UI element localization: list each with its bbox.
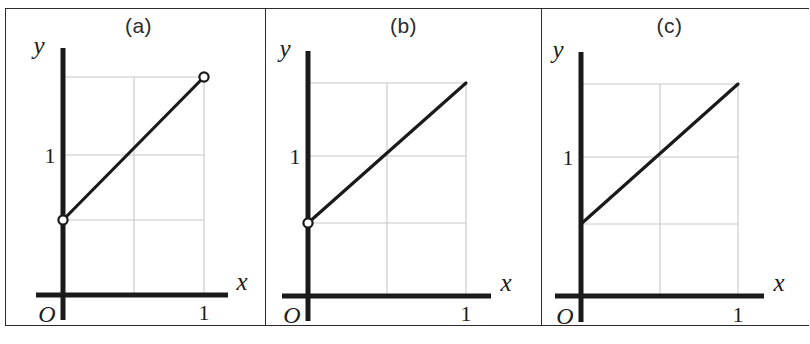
open-circle-left-endpoint bbox=[303, 218, 312, 227]
panel-c: (c) y x 1 1 O bbox=[542, 8, 809, 326]
panel-a-plot: y x 1 1 O bbox=[6, 8, 265, 326]
panel-a: (a) y x 1 1 O bbox=[6, 8, 265, 326]
panel-c-plot: y x 1 1 O bbox=[542, 8, 809, 326]
y-axis-label: y bbox=[276, 35, 291, 62]
y-axis-label: y bbox=[549, 36, 564, 63]
figure-three-graphs: (a) y x 1 1 O (b) bbox=[0, 0, 810, 344]
panel-c-gridlines bbox=[581, 84, 738, 296]
y-tick-label-1: 1 bbox=[563, 145, 574, 170]
x-tick-label-1: 1 bbox=[733, 302, 744, 326]
x-tick-label-1: 1 bbox=[199, 300, 210, 325]
open-circle-left-endpoint bbox=[58, 215, 67, 224]
panel-a-gridlines bbox=[63, 77, 204, 295]
origin-label: O bbox=[38, 301, 55, 326]
origin-label: O bbox=[283, 302, 300, 326]
panel-b-gridlines bbox=[308, 83, 466, 296]
origin-label: O bbox=[556, 303, 573, 326]
x-tick-label-1: 1 bbox=[461, 301, 472, 326]
y-axis-label: y bbox=[30, 32, 45, 59]
x-axis-label: x bbox=[499, 269, 511, 296]
y-tick-label-1: 1 bbox=[45, 143, 56, 168]
y-tick-label-1: 1 bbox=[290, 144, 301, 169]
panel-b: (b) y x 1 1 O bbox=[266, 8, 541, 326]
panel-b-plot: y x 1 1 O bbox=[266, 8, 541, 326]
open-circle-right-endpoint bbox=[199, 72, 208, 81]
x-axis-label: x bbox=[772, 269, 784, 296]
x-axis-label: x bbox=[235, 268, 247, 295]
